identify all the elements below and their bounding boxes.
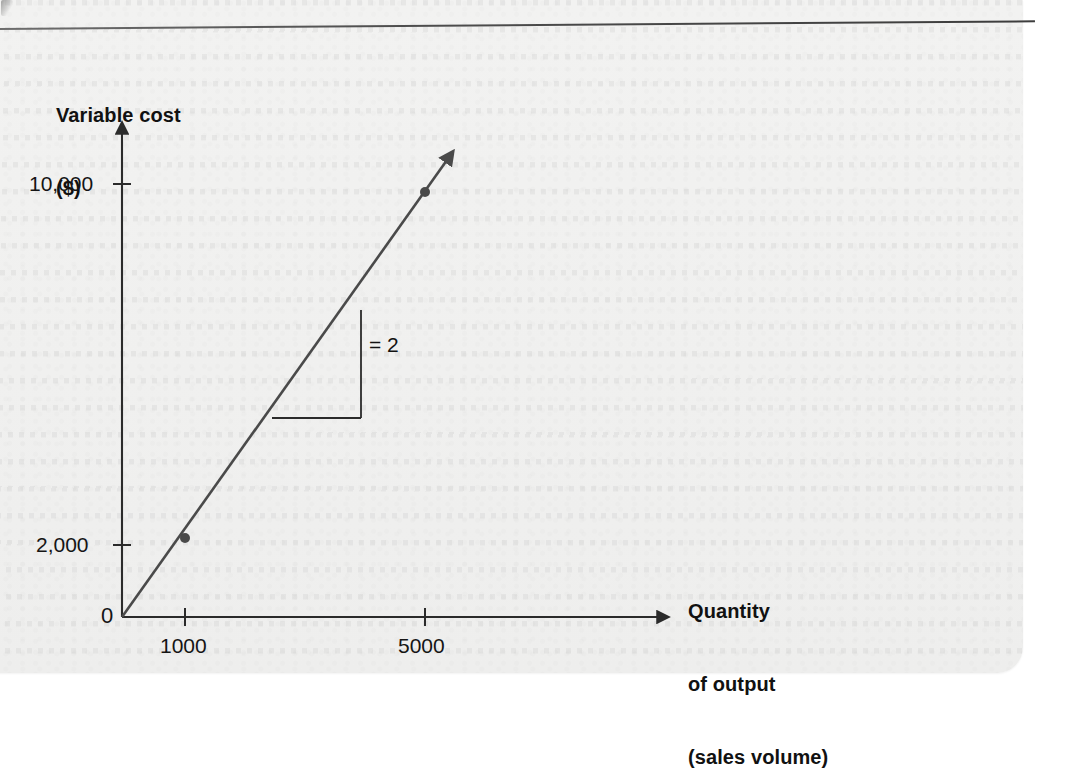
y-tick-label-0: 0 [101,603,113,629]
x-axis-title: Quantity of output (sales volume) [688,550,828,772]
y-tick-label-10000: 10,000 [29,172,93,196]
x-tick-label-1000: 1000 [160,634,207,658]
x-axis-title-line3: (sales volume) [688,745,828,769]
y-axis-title: Variable cost ($) [56,54,181,249]
x-tick-label-5000: 5000 [398,634,445,658]
y-axis-title-line1: Variable cost [56,103,181,127]
x-axis-title-line2: of output [688,672,828,696]
y-tick-label-2000: 2,000 [36,533,89,557]
data-point-1000 [180,533,190,543]
data-point-5000 [420,187,430,197]
x-axis-title-line1: Quantity [688,599,828,623]
slope-annotation-label: = 2 [369,333,399,357]
